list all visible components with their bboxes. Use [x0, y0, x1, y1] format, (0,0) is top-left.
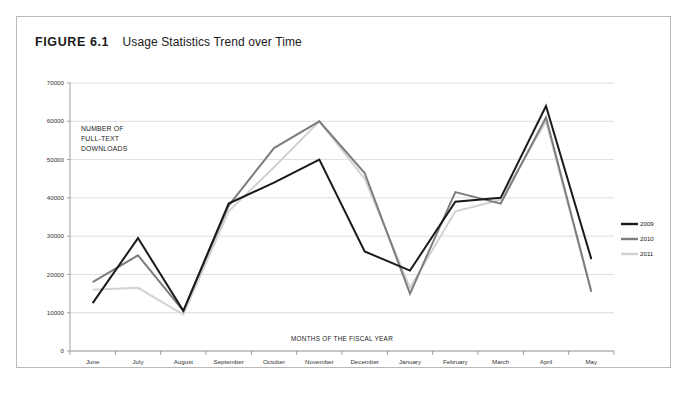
y-tick-label: 50000: [47, 156, 65, 163]
y-tick-label: 30000: [47, 232, 65, 239]
y-tick-label: 40000: [47, 194, 65, 201]
y-tick-label: 60000: [47, 117, 65, 124]
x-axis: JuneJulyAugustSeptemberOctoberNovemberDe…: [70, 351, 614, 365]
line-chart: 010000200003000040000500006000070000 Jun…: [17, 17, 672, 369]
y-axis-caption-line: NUMBER OF: [81, 125, 124, 132]
x-tick-label: August: [174, 358, 194, 365]
y-axis-caption: NUMBER OFFULL-TEXTDOWNLOADS: [81, 125, 128, 152]
legend-label-2010: 2010: [640, 235, 654, 242]
series-line-2009: [93, 106, 592, 311]
x-tick-label: November: [305, 358, 334, 365]
legend-label-2011: 2011: [640, 250, 654, 257]
y-tick-label: 20000: [47, 271, 65, 278]
x-tick-label: October: [263, 358, 285, 365]
x-tick-label: July: [132, 358, 144, 365]
chart-svg: 010000200003000040000500006000070000 Jun…: [17, 17, 672, 369]
x-tick-label: April: [540, 358, 552, 365]
figure-card: FIGURE 6.1 Usage Statistics Trend over T…: [16, 16, 671, 368]
x-tick-label: March: [492, 358, 510, 365]
gridlines: [70, 83, 614, 351]
data-series: [93, 106, 592, 315]
x-tick-label: January: [399, 358, 422, 365]
y-tick-label: 70000: [47, 79, 65, 86]
series-line-2010: [93, 117, 592, 310]
x-axis-title: MONTHS OF THE FISCAL YEAR: [291, 335, 393, 342]
legend: 200920102011: [621, 220, 654, 257]
legend-label-2009: 2009: [640, 220, 654, 227]
x-tick-label: September: [214, 358, 244, 365]
x-axis-title-text: MONTHS OF THE FISCAL YEAR: [291, 335, 393, 342]
x-tick-label: June: [86, 358, 100, 365]
y-axis-caption-line: FULL-TEXT: [81, 135, 119, 142]
y-axis-caption-line: DOWNLOADS: [81, 145, 128, 152]
x-tick-label: February: [443, 358, 469, 365]
y-axis-ticks: 010000200003000040000500006000070000: [47, 79, 70, 354]
y-tick-label: 0: [61, 347, 65, 354]
x-tick-label: December: [350, 358, 379, 365]
x-tick-label: May: [585, 358, 598, 365]
y-tick-label: 10000: [47, 309, 65, 316]
